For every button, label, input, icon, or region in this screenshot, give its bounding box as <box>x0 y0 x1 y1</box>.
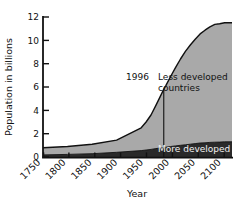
y-axis-title: Population in billions <box>3 38 14 136</box>
y-tick-label-10: 10 <box>28 36 40 46</box>
y-tick-label-2: 2 <box>33 129 39 139</box>
annotation-year-1996: 1996 <box>126 72 149 82</box>
x-axis-title: Year <box>126 188 147 199</box>
population-growth-chart: 12 10 8 6 4 2 0 1750 1800 1850 1900 1950… <box>0 0 241 204</box>
annotation-more-developed: More developed <box>158 144 230 154</box>
y-tick-label-6: 6 <box>33 82 39 92</box>
chart-canvas: 12 10 8 6 4 2 0 1750 1800 1850 1900 1950… <box>0 0 241 204</box>
y-tick-label-8: 8 <box>33 59 39 69</box>
annotation-less-developed-line1: Less developed <box>158 72 228 82</box>
y-tick-label-4: 4 <box>33 106 39 116</box>
y-tick-label-12: 12 <box>28 12 39 22</box>
annotation-less-developed-line2: countries <box>158 83 200 93</box>
